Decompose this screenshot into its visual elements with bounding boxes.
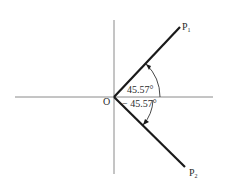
angle-label-lower: − 45.57° (122, 98, 157, 109)
origin-label: O (103, 96, 110, 107)
point-label-p1: P1 (182, 21, 191, 33)
angle-label-upper: 45.57° (127, 84, 154, 95)
point-label-p2: P2 (189, 167, 198, 179)
angle-diagram: 45.57° − 45.57° O P1 P2 (0, 0, 226, 187)
arc-arrowhead-lower-icon (143, 119, 149, 125)
